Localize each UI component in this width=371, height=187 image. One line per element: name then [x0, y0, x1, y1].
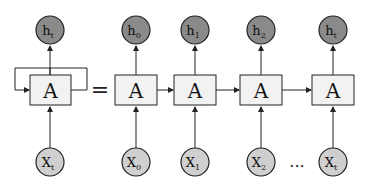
rnn-diagram: A ht Xt = A h0 X0 A h1	[0, 0, 371, 187]
time-step-0: A h0 X0	[115, 16, 157, 176]
cell-label: A	[42, 79, 58, 103]
cell-label: A	[128, 79, 144, 103]
cell-label: A	[187, 79, 203, 103]
time-step-2: A h2 X2	[240, 16, 282, 176]
rolled-rnn: A ht Xt	[15, 16, 87, 176]
time-step-t: A ht Xt	[312, 16, 354, 176]
unrolled-rnn: A h0 X0 A h1 X1 A h2 X2	[115, 16, 354, 176]
ellipsis: ...	[289, 152, 304, 171]
time-step-1: A h1 X1	[174, 16, 216, 176]
cell-label: A	[325, 79, 341, 103]
cell-label: A	[253, 79, 269, 103]
equals-sign: =	[91, 77, 109, 102]
